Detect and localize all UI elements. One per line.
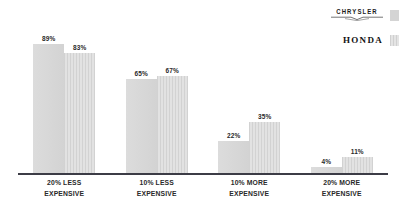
chrysler-logo: CHRYSLER (331, 9, 383, 21)
bar-group: 65%67% (111, 28, 204, 173)
category-label: 20% LESSEXPENSIVE (18, 178, 111, 199)
legend-item-chrysler: CHRYSLER (331, 8, 399, 22)
bar-honda[interactable]: 35% (249, 122, 280, 173)
category-axis-labels: 20% LESSEXPENSIVE10% LESSEXPENSIVE10% MO… (18, 178, 388, 199)
bar-group-bars: 4%11% (311, 28, 373, 173)
bar-value-label: 65% (135, 70, 148, 77)
category-label-line: 20% MORE (323, 179, 360, 186)
bar-groups: 89%83%65%67%22%35%4%11% (18, 28, 388, 173)
bar-chrysler[interactable]: 89% (33, 44, 64, 173)
bar-slot: 83% (64, 28, 95, 173)
bar-honda[interactable]: 67% (157, 76, 188, 173)
bar-value-label: 4% (321, 158, 331, 165)
bar-value-label: 35% (258, 113, 271, 120)
bar-group: 22%35% (203, 28, 296, 173)
category-label: 20% MOREEXPENSIVE (296, 178, 389, 199)
bar-slot: 35% (249, 28, 280, 173)
category-label-line: EXPENSIVE (296, 189, 389, 200)
bar-slot: 65% (126, 28, 157, 173)
bar-value-label: 22% (227, 132, 240, 139)
bar-slot: 89% (33, 28, 64, 173)
bar-group: 4%11% (296, 28, 389, 173)
legend-swatch-honda (390, 35, 399, 46)
chrysler-wordmark-text: CHRYSLER (336, 9, 378, 16)
category-label-line: 10% LESS (140, 179, 174, 186)
baseline-axis (18, 173, 388, 175)
bar-honda[interactable]: 11% (342, 157, 373, 173)
category-label-line: EXPENSIVE (203, 189, 296, 200)
bar-chrysler[interactable]: 65% (126, 79, 157, 173)
bar-slot: 4% (311, 28, 342, 173)
bar-group-bars: 22%35% (218, 28, 280, 173)
category-label: 10% MOREEXPENSIVE (203, 178, 296, 199)
bar-value-label: 89% (42, 35, 55, 42)
bar-group-bars: 89%83% (33, 28, 95, 173)
category-label-line: EXPENSIVE (18, 189, 111, 200)
bar-chrysler[interactable]: 22% (218, 141, 249, 173)
plot-area: 89%83%65%67%22%35%4%11% (18, 28, 388, 173)
bar-group-bars: 65%67% (126, 28, 188, 173)
bar-group: 89%83% (18, 28, 111, 173)
chrysler-wings-icon (331, 16, 383, 21)
bar-value-label: 83% (73, 44, 86, 51)
bar-honda[interactable]: 83% (64, 53, 95, 173)
bar-value-label: 11% (351, 148, 364, 155)
legend-swatch-chrysler (390, 10, 399, 21)
bar-slot: 11% (342, 28, 373, 173)
bar-value-label: 67% (166, 67, 179, 74)
category-label-line: EXPENSIVE (111, 189, 204, 200)
grouped-bar-chart: CHRYSLER HONDA 89%83%65%67%22%35%4%11% 2… (0, 0, 407, 215)
category-label-line: 20% LESS (47, 179, 81, 186)
bar-slot: 22% (218, 28, 249, 173)
bar-slot: 67% (157, 28, 188, 173)
category-label: 10% LESSEXPENSIVE (111, 178, 204, 199)
category-label-line: 10% MORE (231, 179, 268, 186)
